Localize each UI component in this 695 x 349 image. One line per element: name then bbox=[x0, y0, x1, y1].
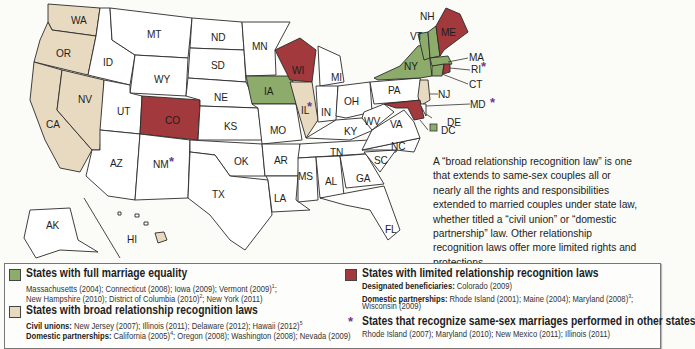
label-tx: TX bbox=[212, 188, 225, 200]
label-ks: KS bbox=[224, 120, 237, 132]
legend-limited-title: States with limited relationship recogni… bbox=[362, 266, 598, 280]
label-wi: WI bbox=[292, 64, 304, 76]
label-md: MD bbox=[470, 98, 485, 110]
label-ky: KY bbox=[344, 125, 357, 137]
legend-recognize-text: Rhode Island (2007); Maryland (2010); Ne… bbox=[362, 329, 610, 340]
label-id: ID bbox=[103, 56, 113, 68]
label-ar: AR bbox=[274, 154, 288, 166]
label-nd: ND bbox=[211, 31, 225, 43]
label-ok: OK bbox=[234, 155, 248, 167]
label-nv: NV bbox=[78, 93, 92, 105]
asterisk-nm: * bbox=[169, 154, 174, 169]
definition-note: A “broad relationship recognition law” i… bbox=[433, 154, 640, 269]
label-pa: PA bbox=[388, 84, 400, 96]
asterisk-legend-icon: * bbox=[348, 314, 353, 329]
asterisk-md: * bbox=[490, 95, 495, 110]
label-ga: GA bbox=[356, 172, 370, 184]
legend-limited-db: Designated beneficiaries: Colorado (2009… bbox=[362, 281, 512, 292]
label-nm: NM bbox=[153, 158, 168, 170]
legend-limited-dp2: Wisconsin (2009) bbox=[362, 301, 421, 312]
label-al: AL bbox=[325, 175, 337, 187]
label-la: LA bbox=[274, 192, 286, 204]
label-ct: CT bbox=[469, 78, 482, 90]
asterisk-ri: * bbox=[481, 59, 486, 74]
label-ne: NE bbox=[214, 91, 228, 103]
label-me: ME bbox=[441, 26, 456, 38]
label-dc: DC bbox=[441, 124, 455, 136]
state-ri bbox=[443, 64, 450, 74]
label-fl: FL bbox=[385, 223, 396, 235]
label-ak: AK bbox=[46, 219, 59, 231]
swatch-full-marriage bbox=[9, 269, 21, 281]
label-mo: MO bbox=[270, 124, 286, 136]
state-ak bbox=[24, 208, 98, 258]
label-sc: SC bbox=[374, 154, 388, 166]
label-tn: TN bbox=[330, 146, 343, 158]
legend-broad-title: States with broad relationship recogniti… bbox=[26, 303, 258, 317]
label-nj: NJ bbox=[438, 88, 450, 100]
label-ny: NY bbox=[404, 60, 418, 72]
dc-swatch bbox=[430, 124, 437, 131]
label-ms: MS bbox=[298, 170, 313, 182]
swatch-broad-recognition bbox=[9, 306, 21, 318]
label-oh: OH bbox=[344, 95, 359, 107]
label-mn: MN bbox=[252, 40, 267, 52]
label-wa: WA bbox=[71, 14, 87, 26]
label-az: AZ bbox=[110, 157, 123, 169]
label-mt: MT bbox=[147, 28, 161, 40]
label-sd: SD bbox=[211, 59, 225, 71]
label-nc: NC bbox=[391, 140, 405, 152]
label-ut: UT bbox=[117, 105, 130, 117]
label-hi: HI bbox=[127, 233, 137, 245]
label-va: VA bbox=[390, 118, 402, 130]
label-ia: IA bbox=[264, 85, 273, 97]
label-wy: WY bbox=[154, 73, 170, 85]
label-ca: CA bbox=[46, 118, 60, 130]
label-or: OR bbox=[56, 47, 71, 59]
legend-recognize-title: States that recognize same-sex marriages… bbox=[362, 314, 695, 328]
asterisk-il: * bbox=[307, 99, 312, 114]
label-in: IN bbox=[321, 106, 331, 118]
label-vt: VT bbox=[410, 30, 423, 42]
legend-broad-dp: Domestic partnerships: California (2005)… bbox=[26, 328, 350, 342]
label-co: CO bbox=[165, 114, 180, 126]
label-nh: NH bbox=[420, 10, 434, 22]
swatch-limited-recognition bbox=[345, 269, 357, 281]
legend-full-title: States with full marriage equality bbox=[26, 266, 187, 280]
label-ri: RI bbox=[471, 63, 481, 75]
label-wv: WV bbox=[364, 115, 380, 127]
label-mi: MI bbox=[331, 71, 342, 83]
legend-box: States with full marriage equality Massa… bbox=[4, 263, 661, 349]
state-hi bbox=[155, 232, 167, 243]
